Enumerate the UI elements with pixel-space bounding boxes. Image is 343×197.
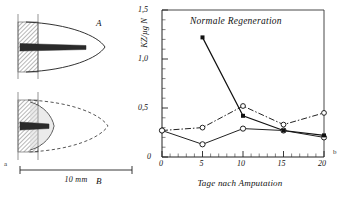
panel-b-chart: 1,5 1,0 0,5 0 0 5 10 15 20 Normale Regen… (128, 0, 343, 197)
diagram-a-letter: A (96, 18, 102, 28)
y-axis-label: KZ/µg N (139, 3, 149, 63)
y-tick-label-0: 0 (147, 152, 151, 161)
x-tick-label-20: 20 (318, 159, 326, 168)
y-tick-label-0-5: 0,5 (138, 103, 148, 112)
series-open-circle (159, 126, 326, 147)
x-tick-label-15: 15 (278, 159, 286, 168)
x-tick-label-0: 0 (159, 159, 163, 168)
x-tick-label-5: 5 (200, 159, 204, 168)
x-axis-label: Tage nach Amputation (150, 178, 330, 188)
chart-title: Normale Regeneration (190, 16, 282, 26)
figure-root: A (0, 0, 343, 197)
series-filled-square (201, 35, 327, 137)
axial-bar-a (20, 44, 86, 52)
y-axis-major-ticks (162, 10, 168, 157)
x-tick-label-10: 10 (237, 159, 245, 168)
panel-b-label: b (333, 148, 337, 156)
